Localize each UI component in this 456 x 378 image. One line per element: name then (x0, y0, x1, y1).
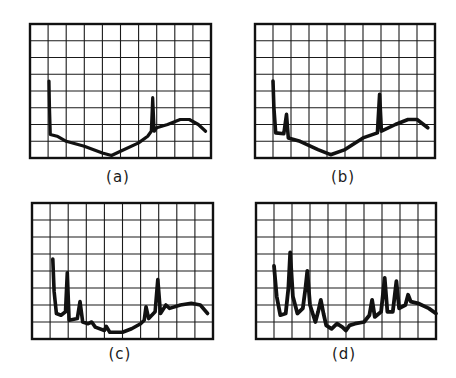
oscilloscope-grid-c (32, 203, 213, 339)
oscilloscope-grid-a (30, 24, 211, 158)
spectrum-trace (53, 259, 208, 332)
caption-d: (d) (314, 345, 374, 363)
caption-c: (c) (90, 345, 150, 363)
oscilloscope-grid-d (256, 203, 436, 339)
spectrum-trace (49, 81, 206, 156)
grid-lines (32, 203, 213, 339)
caption-a: (a) (88, 168, 148, 186)
grid-lines (255, 24, 435, 158)
caption-b: (b) (313, 168, 373, 186)
panel-a (30, 24, 211, 158)
panel-b (255, 24, 435, 158)
spectrum-trace (273, 81, 428, 155)
grid-lines (256, 203, 436, 339)
panel-c (32, 203, 213, 339)
panel-d (256, 203, 436, 339)
oscilloscope-grid-b (255, 24, 435, 158)
spectrum-trace (274, 252, 436, 330)
